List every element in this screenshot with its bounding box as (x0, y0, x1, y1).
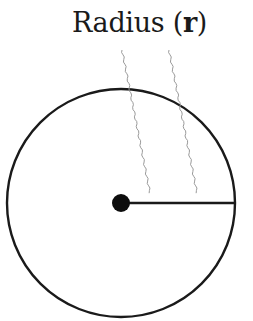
circle-diagram (0, 0, 253, 321)
leader-line-left (122, 50, 150, 193)
center-dot (112, 194, 130, 212)
leader-line-right (169, 50, 197, 193)
